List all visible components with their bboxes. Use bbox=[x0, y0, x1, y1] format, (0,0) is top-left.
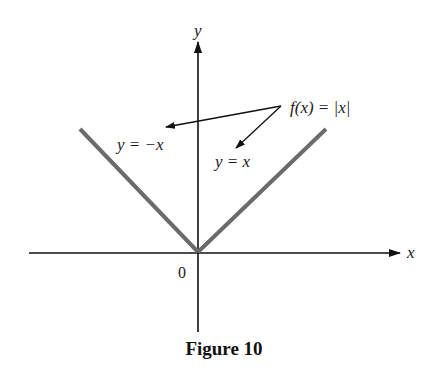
abs-value-graph: y x 0 f(x) = |x| y = −x y = x bbox=[0, 0, 448, 370]
figure-caption: Figure 10 bbox=[0, 338, 448, 360]
right-branch-line bbox=[198, 129, 326, 252]
y-axis-label: y bbox=[192, 21, 202, 40]
function-label: f(x) = |x| bbox=[290, 98, 350, 117]
origin-label: 0 bbox=[178, 264, 186, 281]
right-branch-label: y = x bbox=[213, 152, 251, 171]
left-branch-label: y = −x bbox=[115, 135, 164, 154]
pointer-arrow-right bbox=[236, 106, 281, 148]
pointer-arrow-left bbox=[166, 106, 281, 127]
x-axis-label: x bbox=[406, 243, 415, 262]
